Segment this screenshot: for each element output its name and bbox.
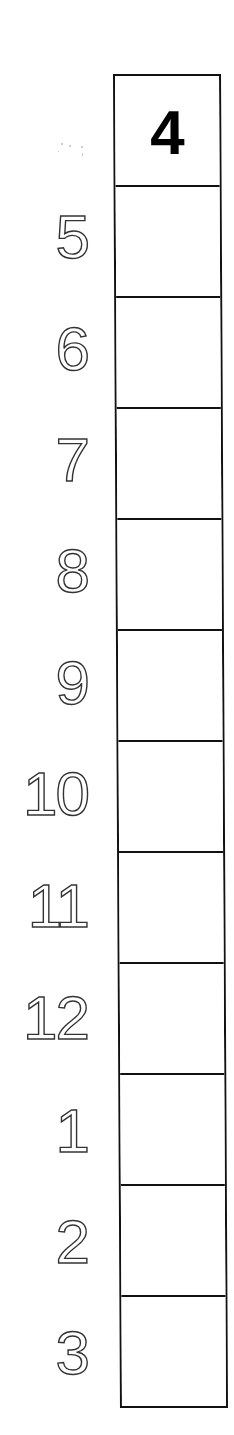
- answer-box[interactable]: [118, 631, 223, 740]
- scan-specks: [55, 135, 95, 165]
- answer-box[interactable]: [120, 1075, 225, 1184]
- row-label: 11: [0, 875, 110, 937]
- answer-box[interactable]: [117, 409, 222, 518]
- starting-number: 4: [150, 102, 185, 164]
- answer-box[interactable]: [116, 187, 221, 296]
- row-label: 9: [0, 652, 110, 714]
- answer-cell-3[interactable]: [121, 1297, 226, 1406]
- answer-box[interactable]: [117, 520, 222, 629]
- row-label: 10: [0, 763, 110, 825]
- row-label: 8: [0, 540, 110, 602]
- answer-cell-7[interactable]: [117, 409, 222, 520]
- answer-cell-5[interactable]: [116, 187, 221, 298]
- answer-cell-1[interactable]: [120, 1075, 225, 1186]
- answer-cell-12[interactable]: [120, 964, 225, 1075]
- header-cell: 4: [115, 76, 220, 187]
- answer-cell-10[interactable]: [118, 742, 223, 853]
- row-label: 12: [0, 987, 110, 1049]
- row-label: 3: [0, 1322, 110, 1384]
- answer-cell-6[interactable]: [116, 298, 221, 409]
- row-label: 7: [0, 429, 110, 491]
- answer-column: 4: [113, 74, 228, 1408]
- row-label: 2: [0, 1211, 110, 1273]
- answer-cell-8[interactable]: [117, 520, 222, 631]
- answer-box[interactable]: [121, 1186, 226, 1295]
- row-label: 1: [0, 1100, 110, 1162]
- answer-cell-2[interactable]: [121, 1186, 226, 1297]
- answer-box[interactable]: [120, 964, 225, 1073]
- answer-box[interactable]: [121, 1297, 226, 1406]
- row-label: 5: [0, 206, 110, 268]
- answer-cell-9[interactable]: [118, 631, 223, 742]
- answer-cell-11[interactable]: [119, 853, 224, 964]
- number-sequence-worksheet: 5 6 7 8 9 10 11 12 1 2 3 4: [0, 0, 234, 1435]
- answer-box[interactable]: [116, 298, 221, 407]
- row-label: 6: [0, 318, 110, 380]
- answer-box[interactable]: [118, 742, 223, 851]
- answer-box[interactable]: [119, 853, 224, 962]
